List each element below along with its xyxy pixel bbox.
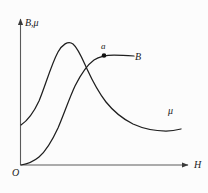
curve-mu: [21, 43, 181, 131]
point-a-marker: [102, 53, 107, 58]
x-axis-label: H: [194, 160, 201, 170]
curve-label-mu: μ: [168, 106, 173, 116]
curve-b: [21, 55, 134, 165]
chart-canvas: [0, 0, 208, 193]
magnetization-curve-figure: B,μ H B μ a O: [0, 0, 208, 193]
y-axis-label: B,μ: [25, 18, 39, 28]
curve-label-b: B: [135, 52, 141, 62]
origin-label: O: [12, 168, 19, 178]
point-a-label: a: [101, 42, 106, 51]
